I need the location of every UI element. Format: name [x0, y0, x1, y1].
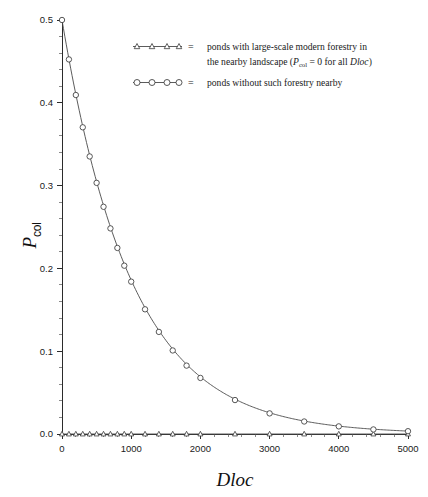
legend-equals-triangle: = [188, 41, 194, 52]
legend-l2-suffix: ) [369, 56, 372, 68]
legend-entry-forestry: = ponds with large-scale modern forestry… [133, 41, 372, 68]
x-tick-label: 2000 [190, 443, 211, 454]
x-tick-label: 1000 [121, 443, 142, 454]
data-point-circle [336, 424, 341, 429]
x-axis-tick-labels: 010002000300040005000 [59, 443, 418, 454]
legend-l2-dloc: Dloc [349, 56, 369, 67]
legend-l2-prefix: the nearby landscape ( [207, 56, 293, 68]
x-tick-label: 0 [59, 443, 64, 454]
legend-l2-subscript: col [299, 61, 307, 68]
data-point-circle [101, 204, 106, 209]
data-point-circle [87, 154, 92, 159]
legend-label-no-forestry: ponds without such forestry nearby [207, 77, 343, 88]
y-tick-label: 0.5 [40, 14, 53, 25]
data-point-circle [232, 397, 237, 402]
data-point-circle [94, 180, 99, 185]
data-point-circle [176, 80, 182, 86]
y-tick-label: 0.3 [40, 180, 53, 191]
data-point-circle [129, 279, 134, 284]
data-point-circle [142, 307, 147, 312]
chart-canvas: 0.00.10.20.30.40.5 010002000300040005000… [0, 0, 428, 497]
data-point-circle [134, 80, 140, 86]
chart-figure: 0.00.10.20.30.40.5 010002000300040005000… [0, 0, 428, 497]
data-point-circle [267, 411, 272, 416]
legend-label-forestry-line1: ponds with large-scale modern forestry i… [207, 41, 367, 52]
y-tick-label: 0.0 [40, 428, 53, 439]
data-point-circle [115, 245, 120, 250]
y-axis-title: Pcol [8, 205, 54, 265]
legend-entry-no-forestry: = ponds without such forestry nearby [133, 77, 343, 88]
data-point-circle [302, 419, 307, 424]
data-point-circle [149, 80, 155, 86]
y-tick-label: 0.4 [40, 97, 53, 108]
y-axis-ticks [57, 20, 62, 434]
x-tick-label: 3000 [259, 443, 280, 454]
data-point-circle [405, 428, 410, 433]
data-point-circle [156, 329, 161, 334]
legend-l2-mid: = 0 for all [307, 56, 350, 67]
x-axis-title: Dloc [216, 469, 255, 490]
y-axis-title-subscript: col [29, 222, 43, 237]
y-tick-label: 0.1 [40, 346, 53, 357]
data-point-circle [198, 375, 203, 380]
chart-legend: = ponds with large-scale modern forestry… [133, 41, 372, 88]
data-point-circle [184, 363, 189, 368]
data-point-circle [108, 226, 113, 231]
data-point-circle [371, 427, 376, 432]
legend-equals-circle: = [188, 77, 194, 88]
data-point-circle [80, 125, 85, 130]
data-point-circle [164, 80, 170, 86]
data-point-circle [170, 348, 175, 353]
x-tick-label: 4000 [328, 443, 349, 454]
y-axis-title-base: P [19, 237, 40, 249]
data-point-circle [66, 57, 71, 62]
data-point-circle [122, 263, 127, 268]
data-point-circle [59, 17, 64, 22]
legend-label-forestry-line2: the nearby landscape (Pcol = 0 for all D… [207, 56, 372, 68]
data-point-circle [73, 92, 78, 97]
series-forestry-nearby [60, 431, 411, 436]
x-tick-label: 5000 [397, 443, 418, 454]
